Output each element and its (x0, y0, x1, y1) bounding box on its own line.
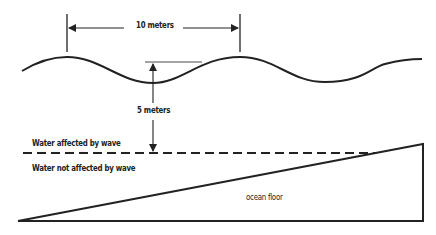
unaffected-water-label: Water not affected by wave (32, 162, 135, 173)
ocean-floor-label: ocean floor (246, 191, 283, 202)
wavelength-label: 10 meters (136, 19, 174, 30)
wave-surface (22, 57, 422, 83)
ocean-floor (18, 144, 423, 221)
wave-diagram (0, 0, 436, 235)
affected-water-label: Water affected by wave (32, 137, 121, 148)
depth-label: 5 meters (137, 104, 170, 115)
